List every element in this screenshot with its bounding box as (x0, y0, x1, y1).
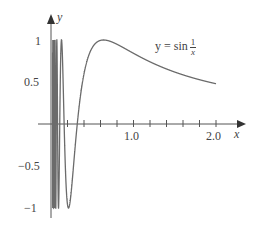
x-tick-2.0: 2.0 (206, 130, 221, 142)
x-tick-1.0: 1.0 (124, 130, 139, 142)
equation-label: y = sin1x (155, 38, 196, 57)
equation-fraction: 1x (190, 38, 197, 57)
y-tick-1: 1 (35, 35, 41, 47)
y-axis-label: y (57, 11, 62, 23)
y-axis-arrow-icon (47, 14, 55, 24)
equation-prefix: y = sin (155, 39, 188, 53)
y-tick-neg-1: −1 (24, 202, 37, 214)
fraction-denominator: x (190, 48, 197, 57)
y-tick-0.5: 0.5 (24, 76, 39, 88)
y-tick-neg-0.5: −0.5 (18, 160, 40, 172)
x-axis-label: x (234, 128, 239, 140)
